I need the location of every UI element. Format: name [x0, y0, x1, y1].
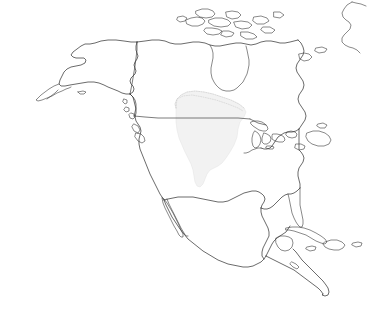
great-lakes: [251, 121, 297, 149]
alaska: [36, 40, 138, 112]
hudson-bay: [210, 45, 249, 91]
jamaica: [306, 246, 316, 251]
alaska-canada-border: [130, 42, 137, 116]
greenland-west-coast: [299, 2, 366, 61]
cuba: [286, 227, 327, 244]
puerto-rico: [352, 242, 362, 247]
central-plains-highlight: [175, 91, 246, 187]
map-canvas: North America outline map: [0, 0, 378, 321]
central-america: [266, 249, 329, 296]
north-america-map: [0, 0, 378, 321]
west-coast: [130, 94, 164, 200]
hispaniola: [323, 240, 345, 250]
canadian-arctic-archipelago: [177, 9, 284, 39]
yucatan-peninsula: [276, 236, 293, 251]
